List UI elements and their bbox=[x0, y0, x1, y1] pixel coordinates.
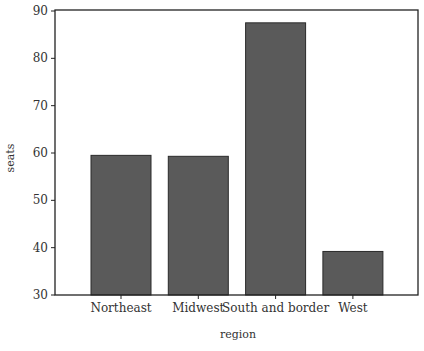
bar-chart: 30405060708090 NortheastMidwestSouth and… bbox=[0, 0, 424, 351]
y-axis-title: seats bbox=[4, 143, 17, 172]
y-tick-label: 50 bbox=[33, 193, 48, 207]
y-axis: 30405060708090 bbox=[33, 4, 55, 302]
y-tick-label: 60 bbox=[33, 146, 48, 160]
x-axis-title: region bbox=[220, 328, 256, 341]
bar-west bbox=[323, 251, 383, 295]
x-tick-label: South and border bbox=[222, 301, 329, 315]
x-tick-label: Northeast bbox=[90, 301, 151, 315]
y-tick-label: 90 bbox=[33, 4, 48, 18]
x-tick-label: Midwest bbox=[172, 301, 224, 315]
y-tick-label: 80 bbox=[33, 51, 48, 65]
bars-group bbox=[91, 23, 383, 295]
x-tick-label: West bbox=[338, 301, 368, 315]
y-tick-label: 40 bbox=[33, 241, 48, 255]
x-axis: NortheastMidwestSouth and borderWest bbox=[90, 295, 367, 315]
y-tick-label: 30 bbox=[33, 288, 48, 302]
bar-south-and-border bbox=[246, 23, 306, 295]
bar-midwest bbox=[168, 156, 228, 295]
y-tick-label: 70 bbox=[33, 99, 48, 113]
bar-northeast bbox=[91, 155, 151, 295]
